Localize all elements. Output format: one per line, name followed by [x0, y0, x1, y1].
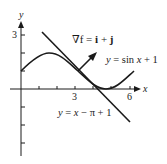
- sine-curve-label: y = sin x + 1: [106, 55, 158, 66]
- tangent-label-tail: − π + 1: [79, 107, 112, 118]
- x-axis-arrow-icon: [134, 86, 141, 92]
- y-axis-label: y: [19, 10, 23, 20]
- sine-label-tail: + 1: [141, 54, 157, 65]
- y-axis-arrow-icon: [18, 21, 24, 28]
- diagram-canvas: [0, 0, 167, 164]
- gradient-label-j: j: [110, 33, 114, 45]
- y-tick-label-3: 3: [12, 30, 17, 40]
- x-axis-label: x: [143, 84, 147, 94]
- tangent-label-eq: =: [63, 107, 74, 118]
- x-tick-label-6: 6: [127, 92, 132, 102]
- gradient-label: ∇f = i + j: [72, 34, 114, 45]
- gradient-label-plus: +: [98, 33, 110, 45]
- tangent-line-label: y = x − π + 1: [58, 108, 111, 119]
- gradient-label-prefix: ∇f =: [72, 33, 95, 45]
- x-tick-label-3: 3: [72, 92, 77, 102]
- gradient-diagram: y x 3 3 6 ∇f = i + j y = sin x + 1 y = x…: [0, 0, 167, 164]
- sine-label-mid: = sin: [111, 54, 137, 65]
